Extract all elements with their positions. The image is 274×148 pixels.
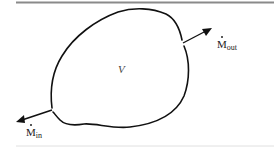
inlet-symbol: M [26,127,36,138]
inlet-arrowhead-icon [16,115,25,123]
inlet-subscript: in [36,131,42,140]
control-volume-boundary-lower [53,46,189,127]
outlet-symbol: M [217,39,227,50]
inlet-mass-flow-label: Min [26,127,42,138]
control-volume-diagram: V Mout Min [0,0,274,148]
control-volume-boundary-upper [51,9,182,108]
volume-label: V [118,64,125,75]
inlet-flow-line [22,110,52,120]
diagram-graphics [0,0,274,148]
outlet-mass-flow-label: Mout [217,39,237,50]
outlet-flow-line [183,31,206,43]
outlet-subscript: out [227,43,237,52]
